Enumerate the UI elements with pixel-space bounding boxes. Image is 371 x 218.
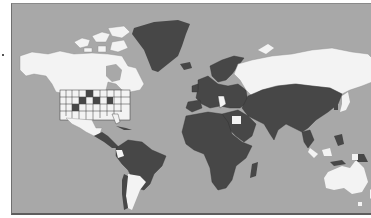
iceland <box>180 62 192 70</box>
madagascar <box>250 162 258 178</box>
argentina <box>126 174 146 210</box>
se-asia-islands <box>308 134 368 166</box>
usa <box>60 90 130 120</box>
egypt <box>232 116 241 124</box>
south-america <box>116 140 166 210</box>
north-america-light <box>20 26 144 100</box>
australia <box>324 160 368 194</box>
mexico <box>66 118 102 136</box>
central-america <box>94 132 120 148</box>
world-map <box>11 3 371 215</box>
map-svg <box>12 4 371 215</box>
edge-mark <box>2 54 4 56</box>
